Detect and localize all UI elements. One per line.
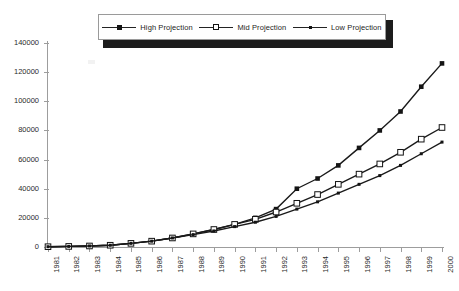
y-tick-label: 140000 [14, 38, 39, 47]
data-point [399, 164, 402, 167]
data-point [295, 186, 300, 191]
x-tick [380, 247, 381, 252]
x-tick-label: 1984 [114, 256, 123, 273]
x-tick-label: 1985 [134, 256, 143, 273]
small-filled-square-marker-icon [293, 23, 327, 32]
x-tick-label: 1998 [404, 256, 413, 273]
x-tick [359, 247, 360, 252]
legend-label: High Projection [140, 23, 192, 32]
plot-area: 140000120000100000800006000040000200000 … [48, 43, 443, 247]
data-point [150, 240, 153, 243]
data-point [273, 209, 279, 215]
x-tick-label: 1994 [321, 256, 330, 273]
data-point [336, 182, 342, 188]
data-point [171, 236, 174, 239]
data-point [67, 245, 70, 248]
open-square-marker-icon [199, 23, 233, 32]
series-layer [48, 43, 443, 247]
data-point [254, 221, 257, 224]
x-tick-label: 1988 [197, 256, 206, 273]
projection-line-chart: High Projection Mid Projection Low Proje… [0, 0, 459, 291]
data-point [377, 161, 383, 167]
data-point [441, 141, 444, 144]
x-tick [442, 247, 443, 252]
data-point [129, 242, 132, 245]
chart-legend: High Projection Mid Projection Low Proje… [98, 14, 386, 40]
x-tick-label: 1983 [93, 256, 102, 273]
legend-label: Mid Projection [237, 23, 286, 32]
x-tick [318, 247, 319, 252]
legend-label: Low Projection [331, 23, 382, 32]
data-point [233, 225, 236, 228]
filled-square-marker-icon [102, 23, 136, 32]
x-tick [297, 247, 298, 252]
data-point [419, 84, 424, 89]
data-point [109, 244, 112, 247]
x-tick [421, 247, 422, 252]
x-tick-label: 1989 [217, 256, 226, 273]
data-point [316, 200, 319, 203]
x-tick-label: 1997 [383, 256, 392, 273]
x-tick [401, 247, 402, 252]
x-tick-label: 1990 [238, 256, 247, 273]
x-tick [338, 247, 339, 252]
x-tick [235, 247, 236, 252]
x-tick-label: 1999 [425, 256, 434, 273]
data-point [295, 208, 298, 211]
data-point [440, 61, 445, 66]
data-point [212, 229, 215, 232]
data-point [192, 233, 195, 236]
series-high-projection [46, 61, 445, 249]
legend-item-mid-projection[interactable]: Mid Projection [199, 23, 286, 32]
data-point [418, 136, 424, 142]
data-point [336, 163, 341, 168]
x-tick-label: 1993 [300, 256, 309, 273]
data-point [398, 109, 403, 114]
data-point [356, 171, 362, 177]
x-tick-label: 1996 [363, 256, 372, 273]
y-tick-label: 40000 [18, 184, 39, 193]
data-point [378, 174, 381, 177]
x-tick [214, 247, 215, 252]
y-tick-label: 80000 [18, 125, 39, 134]
x-tick [193, 247, 194, 252]
data-point [315, 176, 320, 181]
x-tick-label: 1995 [342, 256, 351, 273]
data-point [47, 245, 50, 248]
data-point [337, 192, 340, 195]
x-tick-label: 1992 [280, 256, 289, 273]
x-tick-label: 1982 [72, 256, 81, 273]
data-point [88, 244, 91, 247]
data-point [398, 149, 404, 155]
data-point [377, 128, 382, 133]
x-tick [131, 247, 132, 252]
data-point [357, 146, 362, 151]
data-point [315, 192, 321, 198]
x-tick-label: 2000 [446, 256, 455, 273]
series-low-projection [47, 141, 444, 249]
data-point [358, 183, 361, 186]
y-tick-label: 120000 [14, 67, 39, 76]
legend-item-low-projection[interactable]: Low Projection [293, 23, 382, 32]
x-tick-label: 1981 [52, 256, 61, 273]
x-tick [152, 247, 153, 252]
data-point [439, 125, 445, 131]
x-tick-label: 1991 [259, 256, 268, 273]
x-axis-line [47, 247, 444, 248]
data-point [294, 200, 300, 206]
data-point [275, 215, 278, 218]
x-tick-label: 1987 [176, 256, 185, 273]
x-tick [276, 247, 277, 252]
y-tick-label: 60000 [18, 155, 39, 164]
y-tick-label: 100000 [14, 96, 39, 105]
y-tick-label: 20000 [18, 213, 39, 222]
legend-item-high-projection[interactable]: High Projection [102, 23, 192, 32]
x-tick [255, 247, 256, 252]
x-tick-label: 1986 [155, 256, 164, 273]
x-tick [172, 247, 173, 252]
data-point [420, 152, 423, 155]
y-tick-label: 0 [35, 242, 39, 251]
series-mid-projection [45, 125, 445, 250]
